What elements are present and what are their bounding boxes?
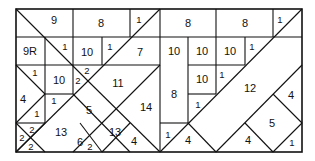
piece-label: 2 <box>84 65 89 76</box>
piece-label: 1 <box>107 41 112 52</box>
piece-label: 5 <box>269 117 275 129</box>
piece-label: 1 <box>165 129 170 140</box>
piece-label: 6 <box>77 136 83 148</box>
line <box>188 123 216 152</box>
piece-label: 5 <box>86 104 92 116</box>
piece-label: 1 <box>136 14 141 25</box>
piece-label: 1 <box>249 41 254 52</box>
piece-label: 2 <box>75 75 80 86</box>
piece-label: 13 <box>55 126 67 138</box>
piece-label: 7 <box>137 46 143 58</box>
piece-label: 1 <box>277 14 282 25</box>
piece-label: 12 <box>244 82 256 94</box>
piece-label: 9 <box>51 14 57 26</box>
line <box>273 123 302 152</box>
piece-label: 2 <box>28 141 33 152</box>
piece-label: 1 <box>195 99 200 110</box>
piece-label: 9R <box>23 45 37 57</box>
piece-label: 1 <box>62 41 67 52</box>
piece-label: 13 <box>109 126 121 138</box>
piece-label: 8 <box>171 88 177 100</box>
piece-label: 8 <box>185 17 191 29</box>
piece-label: 2 <box>19 132 24 143</box>
piece-label: 14 <box>140 101 152 113</box>
piece-label: 4 <box>185 134 191 146</box>
piece-label: 4 <box>288 89 294 101</box>
piece-label: 8 <box>242 17 248 29</box>
piece-label: 10 <box>53 74 65 86</box>
piece-label: 10 <box>196 73 208 85</box>
piece-label: 4 <box>20 93 26 105</box>
piece-label: 2 <box>87 141 92 152</box>
piece-label: 1 <box>51 95 56 106</box>
piece-label: 4 <box>245 134 251 146</box>
piece-label: 10 <box>196 45 208 57</box>
line <box>16 65 45 94</box>
line <box>160 9 302 152</box>
piece-label: 1 <box>32 67 37 78</box>
line <box>88 81 160 152</box>
piece-label: 10 <box>81 46 93 58</box>
piece-label: 1 <box>289 137 294 148</box>
piece-label: 8 <box>98 17 104 29</box>
piece-label: 10 <box>168 45 180 57</box>
quilt-block-diagram: 9 8 1 8 8 1 9R 1 10 1 7 10 10 10 1 1 10 … <box>0 0 315 161</box>
piece-label: 4 <box>131 135 137 147</box>
piece-label: 2 <box>29 124 34 135</box>
piece-label: 10 <box>224 45 236 57</box>
piece-label: 1 <box>219 69 224 80</box>
piece-label: 11 <box>112 77 123 89</box>
piece-label: 1 <box>34 108 39 119</box>
